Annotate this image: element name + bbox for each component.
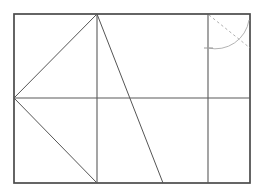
dashed-diagonal <box>209 15 250 48</box>
geometry-canvas <box>0 0 261 195</box>
quarter-arc-icon <box>208 20 249 49</box>
diagonal-lower-left <box>14 98 97 183</box>
diagonal-upper-left <box>14 14 97 98</box>
figure-root <box>0 0 261 195</box>
